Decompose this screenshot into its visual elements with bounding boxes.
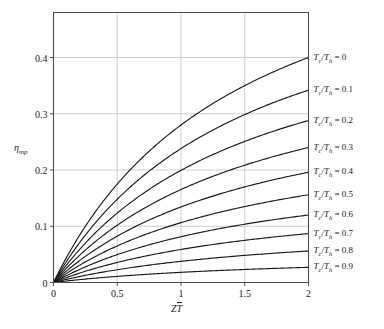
y-tick-label: 0.2 bbox=[0, 165, 48, 176]
y-axis-title: ηmp bbox=[14, 142, 28, 156]
x-tick-label: 1.5 bbox=[239, 288, 252, 299]
y-tick-label: 0 bbox=[0, 277, 48, 288]
series-label-value: 0.7 bbox=[342, 228, 353, 238]
series-label-value: 0.1 bbox=[342, 84, 353, 94]
thermoelectric-efficiency-chart: 00.511.5200.10.20.30.4ηmpZTTc/Th = 0Tc/T… bbox=[0, 0, 384, 329]
x-axis-barred-symbol: T bbox=[177, 303, 183, 314]
series-label-value: 0.6 bbox=[342, 209, 353, 219]
y-tick-label: 0.4 bbox=[0, 52, 48, 63]
x-tick-label: 0 bbox=[51, 288, 56, 299]
y-tick-label: 0.3 bbox=[0, 108, 48, 119]
y-tick-label: 0.1 bbox=[0, 221, 48, 232]
series-label-1: Tc/Th = 0.1 bbox=[314, 84, 354, 96]
x-axis-title: ZT bbox=[171, 303, 182, 314]
series-label-4: Tc/Th = 0.4 bbox=[314, 166, 354, 178]
series-label-9: Tc/Th = 0.9 bbox=[314, 261, 354, 273]
series-label-8: Tc/Th = 0.8 bbox=[314, 245, 354, 257]
plot-canvas bbox=[0, 0, 384, 329]
series-label-value: 0.8 bbox=[342, 245, 353, 255]
x-tick-label: 2 bbox=[306, 288, 311, 299]
series-label-value: 0.9 bbox=[342, 261, 353, 271]
series-label-value: 0.5 bbox=[342, 189, 353, 199]
series-label-6: Tc/Th = 0.6 bbox=[314, 209, 354, 221]
x-tick-label: 1 bbox=[179, 288, 184, 299]
y-axis-subscript: mp bbox=[19, 148, 28, 156]
series-label-5: Tc/Th = 0.5 bbox=[314, 189, 354, 201]
series-label-3: Tc/Th = 0.3 bbox=[314, 142, 354, 154]
series-label-0: Tc/Th = 0 bbox=[314, 52, 347, 64]
series-label-7: Tc/Th = 0.7 bbox=[314, 228, 354, 240]
series-label-value: 0.2 bbox=[342, 115, 353, 125]
series-label-value: 0.3 bbox=[342, 142, 353, 152]
series-label-value: 0 bbox=[342, 52, 347, 62]
series-label-value: 0.4 bbox=[342, 166, 353, 176]
x-tick-label: 0.5 bbox=[111, 288, 124, 299]
series-label-2: Tc/Th = 0.2 bbox=[314, 115, 354, 127]
